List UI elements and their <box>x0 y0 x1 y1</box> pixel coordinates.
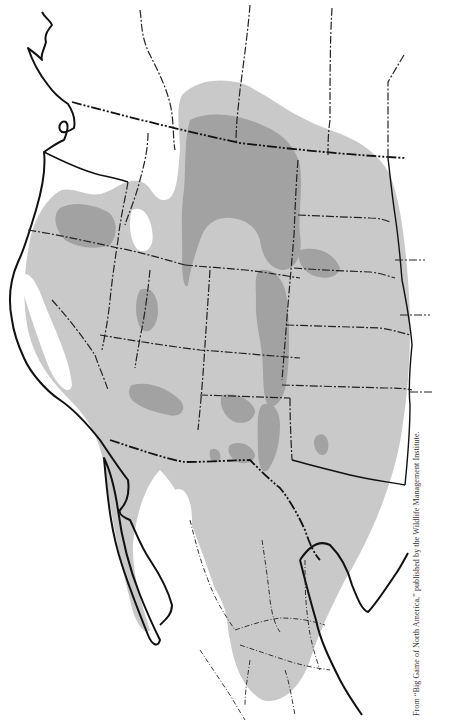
source-caption: From “Big Game of North America,” publis… <box>412 431 421 716</box>
range-map <box>0 0 453 726</box>
